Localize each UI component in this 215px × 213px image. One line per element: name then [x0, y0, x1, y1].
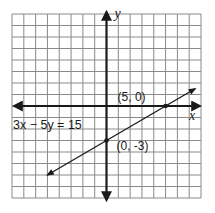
- y-axis-label: y: [113, 6, 122, 21]
- points: (5, 0)(0, -3): [104, 90, 168, 153]
- point-label: (5, 0): [118, 90, 146, 104]
- point-marker: [104, 138, 109, 143]
- point-marker: [163, 104, 168, 109]
- equation-label: 3x − 5y = 15: [13, 118, 82, 132]
- point-label: (0, -3): [117, 139, 149, 153]
- x-axis-label: x: [188, 108, 196, 123]
- coordinate-plane: x y (5, 0)(0, -3) 3x − 5y = 15: [0, 0, 215, 213]
